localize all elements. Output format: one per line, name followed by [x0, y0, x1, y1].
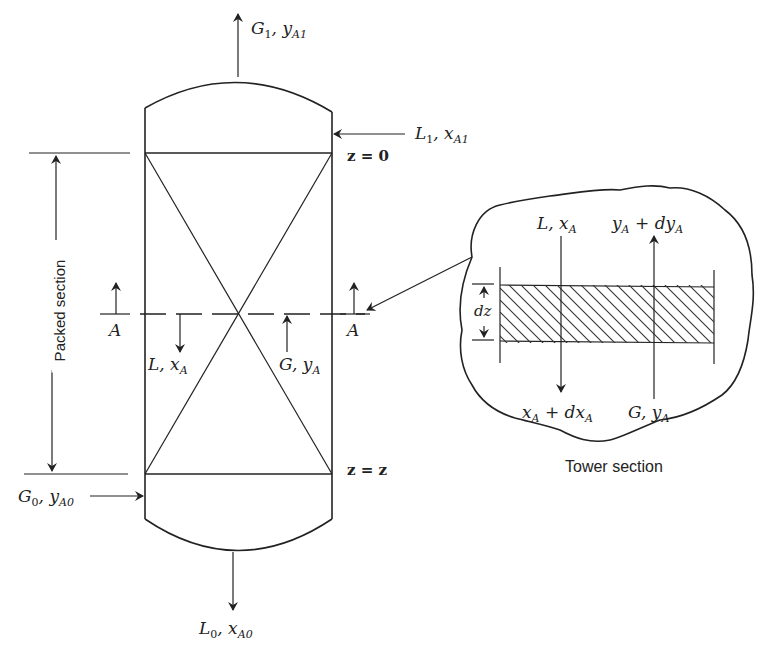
section-line-a [100, 283, 370, 352]
section-bottom-left-label: xA + dxA [522, 404, 593, 424]
gas-in-label: G0, yA0 [18, 488, 74, 508]
local-gas-label: G, yA [279, 356, 320, 376]
section-marker-left: A [109, 322, 121, 339]
section-top-left-label: L, xA [537, 215, 577, 235]
tower-section-caption: Tower section [565, 459, 663, 475]
local-liquid-label: L, xA [148, 356, 188, 376]
bottom-position-label: z = z [347, 463, 387, 478]
liquid-out-label: L0, xA0 [199, 620, 253, 640]
packed-section-label: Packed section [52, 249, 67, 373]
section-top-right-label: yA + dyA [612, 215, 683, 235]
section-bottom-right-label: G, yA [628, 404, 669, 424]
gas-out-label: G1, yA1 [251, 20, 307, 40]
section-marker-right: A [347, 322, 359, 339]
dz-label: dz [474, 304, 492, 319]
top-position-label: z = 0 [347, 149, 389, 164]
callout-leader [367, 257, 472, 310]
liquid-in-label: L1, xA1 [415, 125, 469, 145]
callout-cloud [460, 186, 753, 441]
